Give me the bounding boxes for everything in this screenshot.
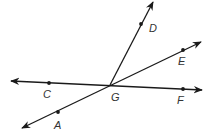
line-AE [22, 42, 201, 128]
point-f-dot [181, 87, 185, 91]
point-e-dot [181, 48, 185, 52]
ray-GD [110, 2, 153, 85]
lines-layer [11, 2, 202, 128]
geometry-diagram: DECFAG [0, 0, 208, 135]
point-a-label: A [53, 119, 61, 131]
point-e-label: E [178, 55, 186, 67]
point-a-dot [56, 110, 60, 114]
point-c-label: C [43, 88, 51, 100]
point-c-dot [47, 81, 51, 85]
line-CF [11, 81, 202, 90]
point-g-label: G [111, 91, 120, 103]
point-f-label: F [177, 94, 185, 106]
point-d-label: D [149, 22, 157, 34]
point-d-dot [139, 22, 143, 26]
